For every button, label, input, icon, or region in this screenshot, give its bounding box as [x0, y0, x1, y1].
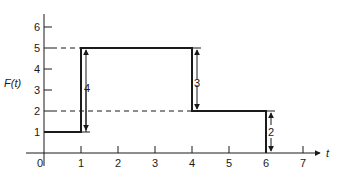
x-tick-label: 2 — [115, 157, 121, 169]
x-tick-label: 7 — [300, 157, 306, 169]
y-tick-label: 4 — [34, 63, 40, 75]
y-tick-label: 3 — [34, 84, 40, 96]
x-ticks — [81, 146, 303, 153]
x-tick-label: 3 — [152, 157, 158, 169]
step-function-line — [44, 48, 266, 153]
annotation-label-3: 3 — [194, 77, 200, 89]
x-tick-label: 1 — [78, 157, 84, 169]
axes — [26, 14, 320, 166]
x-tick-labels: 0 1 2 3 4 5 6 7 — [37, 157, 306, 169]
y-tick-label: 5 — [34, 42, 40, 54]
y-axis-title: F(t) — [4, 77, 21, 89]
annotation-label-4: 4 — [84, 82, 90, 94]
x-tick-label: 0 — [37, 157, 43, 169]
y-tick-label: 1 — [34, 126, 40, 138]
step-function-chart: 1 2 3 4 5 6 0 1 2 3 4 5 6 7 F(t) t — [0, 0, 345, 174]
y-tick-label: 6 — [34, 21, 40, 33]
y-tick-label: 2 — [34, 105, 40, 117]
reference-lines — [52, 48, 192, 111]
annotation-label-2: 2 — [268, 126, 274, 138]
x-axis-title: t — [326, 147, 330, 159]
x-tick-label: 4 — [189, 157, 195, 169]
y-ticks — [44, 27, 52, 132]
x-tick-label: 6 — [263, 157, 269, 169]
y-tick-labels: 1 2 3 4 5 6 — [34, 21, 40, 138]
x-tick-label: 5 — [226, 157, 232, 169]
